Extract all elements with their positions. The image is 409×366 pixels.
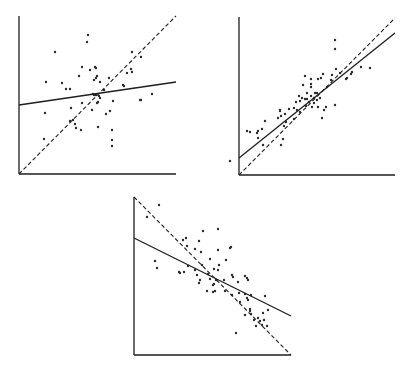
data-point [257,137,259,139]
data-point [310,78,312,80]
data-point [81,102,83,104]
data-point [122,84,124,86]
data-point [244,314,246,316]
data-point [158,204,160,206]
data-point [229,160,231,162]
data-point [111,139,113,141]
data-point [263,319,265,321]
data-point [185,237,187,239]
data-point [43,138,45,140]
data-point [306,92,308,94]
scatter-panel-top-left [19,16,176,174]
data-point [261,324,263,326]
data-point [111,145,113,147]
data-point [45,81,47,83]
data-point [310,86,312,88]
data-point [89,69,91,71]
scatter-panel-bottom-center [134,197,291,355]
data-point [200,251,202,253]
data-point [151,93,153,95]
data-point [183,271,185,273]
data-point [321,117,323,119]
data-point [237,281,239,283]
data-point [284,113,286,115]
data-point [261,128,263,130]
data-point [369,67,371,69]
data-point [182,239,184,241]
data-point [262,144,264,146]
data-point [249,310,251,312]
data-point [213,268,215,270]
data-point [74,123,76,125]
data-point [247,299,249,301]
data-point [311,106,313,108]
data-point [264,120,266,122]
data-point [111,129,113,131]
data-point [316,99,318,101]
data-point [156,267,158,269]
data-point [109,110,111,112]
data-point [206,290,208,292]
data-point [313,102,315,104]
data-point [257,317,259,319]
data-point [209,258,211,260]
data-point [186,245,188,247]
dashed-reference-line [239,18,395,175]
data-point [280,115,282,117]
data-point [335,68,337,70]
data-point [239,301,241,303]
data-point [97,101,99,103]
data-point [146,216,148,218]
data-point [217,228,219,230]
data-point [131,51,133,53]
data-point [91,109,93,111]
data-point [93,79,95,81]
data-points [229,39,371,162]
data-point [223,279,225,281]
data-point [130,68,132,70]
data-point [198,240,200,242]
data-point [105,113,107,115]
data-point [298,95,300,97]
data-point [279,109,281,111]
data-point [139,99,141,101]
data-point [282,138,284,140]
data-point [325,106,327,108]
data-point [44,112,46,114]
data-point [179,272,181,274]
data-point [217,249,219,251]
data-point [331,74,333,76]
data-point [262,312,264,314]
data-point [61,82,63,84]
data-point [231,274,233,276]
data-point [87,34,89,36]
data-point [81,66,83,68]
data-point [95,77,97,79]
data-points [43,34,153,147]
data-point [199,279,201,281]
data-point [99,97,101,99]
data-point [154,260,156,262]
data-point [267,309,269,311]
data-point [317,78,319,80]
solid-regression-line [134,238,291,316]
data-point [112,100,114,102]
data-point [209,278,211,280]
data-point [238,292,240,294]
data-point [301,97,303,99]
data-point [75,127,77,129]
data-point [280,144,282,146]
data-point [299,100,301,102]
data-point [323,109,325,111]
data-point [334,39,336,41]
data-point [194,248,196,250]
data-point [295,101,297,103]
dashed-reference-line [134,197,291,355]
data-point [304,98,306,100]
data-point [54,51,56,53]
data-point [256,132,258,134]
data-point [247,279,249,281]
data-point [266,325,268,327]
data-point [225,259,227,261]
data-point [218,264,220,266]
